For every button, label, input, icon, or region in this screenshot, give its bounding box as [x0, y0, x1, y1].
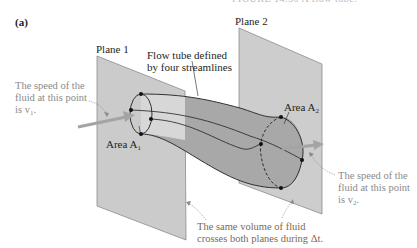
area-a1-label: Area A1 [106, 138, 141, 154]
flow-tube-label: Flow tube defined by four streamlines [147, 49, 232, 73]
flow-tube-diagram [0, 0, 417, 248]
panel-label: (a) [15, 16, 28, 28]
flow-tube-inner-plane1 [141, 94, 185, 140]
speed-note-2: The speed of the fluid at this point is … [338, 170, 410, 209]
area-a2-label: Area A2 [284, 101, 319, 117]
speed-note-1: The speed of the fluid at this point is … [15, 80, 87, 119]
plane-2-label: Plane 2 [235, 15, 268, 27]
volume-note: The same volume of fluid crosses both pl… [197, 221, 323, 245]
plane-1-label: Plane 1 [96, 43, 129, 55]
